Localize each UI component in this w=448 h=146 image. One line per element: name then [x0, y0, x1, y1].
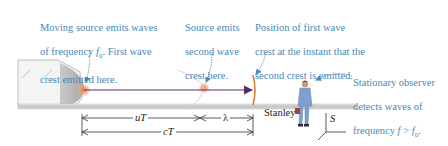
dimension-label-cT: cT — [161, 126, 176, 137]
dimension-label-lambda: λ — [221, 112, 230, 123]
callout-source-second-crest: Source emits second wave crest here. — [185, 10, 255, 94]
callout-second-line2: second wave — [185, 46, 255, 58]
callout-observer-line2: detects waves of — [353, 101, 448, 113]
callout-first-line1: Moving source emits waves — [40, 22, 180, 34]
callout-position-line2: crest at the instant that the — [255, 46, 405, 58]
callout-observer: Stationary observer detects waves of fre… — [353, 65, 448, 146]
dimension-label-uT: uT — [133, 112, 148, 123]
callout-first-line2: of frequency f0. First wave — [40, 46, 180, 62]
callout-second-line1: Source emits — [185, 22, 255, 34]
callout-first-line3: crest emitted here. — [40, 74, 180, 86]
callout-position-line1: Position of first wave — [255, 22, 405, 34]
frame-label-s: S — [330, 113, 335, 124]
callout-observer-line1: Stationary observer — [353, 77, 448, 89]
callout-source-first-crest: Moving source emits waves of frequency f… — [40, 10, 180, 98]
callout-observer-line3: frequency f > f0. — [353, 125, 448, 141]
callout-second-line3: crest here. — [185, 70, 255, 82]
observer-name-label: Stanley — [264, 107, 296, 118]
